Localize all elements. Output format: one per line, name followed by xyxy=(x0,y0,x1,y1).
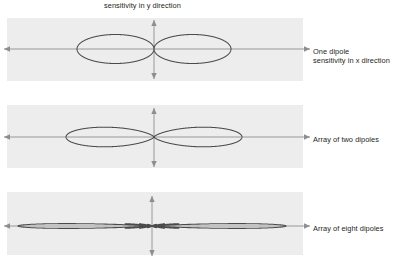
panel-3-8-dipole xyxy=(4,192,310,256)
panel-2-caption: Array of two dipoles xyxy=(313,136,379,145)
panel-1-caption-line-2: sensitivity in x direction xyxy=(313,57,390,66)
panel-2-2-dipole xyxy=(4,105,310,168)
antenna-pattern-figure: sensitivity in y direction One dipole se… xyxy=(0,0,395,269)
panel-1-1-dipole xyxy=(4,18,310,81)
panel-2-caption-line-1: Array of two dipoles xyxy=(313,136,379,145)
panel-1-caption: One dipole sensitivity in x direction xyxy=(313,48,390,65)
panel-1-background xyxy=(7,18,303,81)
panel-3-caption-line-1: Array of eight dipoles xyxy=(313,225,384,234)
y-axis-caption: sensitivity in y direction xyxy=(104,1,181,10)
panel-3-caption: Array of eight dipoles xyxy=(313,225,384,234)
